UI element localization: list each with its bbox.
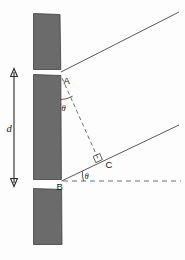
label-angle-top: θ xyxy=(62,103,66,113)
top-slab xyxy=(34,14,61,70)
angle-marker-bottom xyxy=(82,171,83,181)
middle-slab xyxy=(34,75,62,180)
figure-canvas: A B C θ θ d xyxy=(0,0,185,260)
label-angle-bottom: θ xyxy=(85,171,89,181)
upper-ray xyxy=(61,12,179,72)
lower-ray xyxy=(62,125,180,181)
label-point-c: C xyxy=(106,159,113,170)
segment-ac xyxy=(62,78,99,160)
label-point-a: A xyxy=(64,75,71,86)
label-point-b: B xyxy=(57,181,63,192)
label-separation-d: d xyxy=(7,123,13,134)
ray-group xyxy=(61,12,179,181)
slab-group xyxy=(34,14,63,245)
geometry-diagram: A B C θ θ d xyxy=(0,0,185,260)
bottom-slab xyxy=(34,189,63,245)
